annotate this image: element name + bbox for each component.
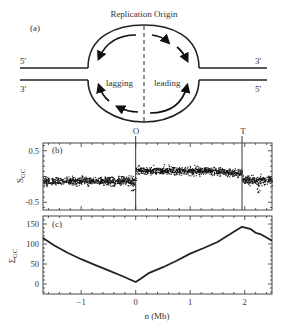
- right-bottom-5prime-label: 5': [255, 84, 262, 94]
- figure: (a) Replication Origin 5' 3' 3' 5' laggi…: [0, 0, 286, 334]
- replication-origin-title: Replication Origin: [110, 9, 178, 19]
- xtick-label: 1: [188, 297, 192, 307]
- panel-b-scatter-plot: (b) 0.5 -0.5 SGC: [15, 136, 273, 210]
- xtick-label: 2: [243, 297, 247, 307]
- origin-marker-O: O: [133, 126, 140, 136]
- right-top-3prime-label: 3': [255, 56, 262, 66]
- panel-c-line-plot: (c) 050100150 −1012 ΣGC n (Mb): [7, 216, 272, 321]
- cumulative-skew-line: [43, 227, 272, 282]
- lagging-lower-arrow-2-icon: [99, 86, 109, 101]
- ytick-label: 0: [35, 279, 39, 289]
- left-bottom-3prime-label: 3': [20, 84, 27, 94]
- panel-a-label: (a): [30, 23, 40, 33]
- left-top-5prime-label: 5': [20, 56, 27, 66]
- lagging-lower-arrow-1-icon: [118, 107, 138, 112]
- ytick-label-neg0.5: -0.5: [26, 197, 39, 207]
- leading-upper-arrow-1-icon: [152, 35, 168, 42]
- panel-c-ylabel: ΣGC: [7, 249, 18, 263]
- panel-c-frame: [43, 216, 272, 294]
- leading-upper-arrow-2-icon: [177, 47, 187, 60]
- bubble-lower-strand: [88, 80, 199, 122]
- panel-a-diagram: (a) Replication Origin 5' 3' 3' 5' laggi…: [20, 9, 267, 136]
- xtick-label: 0: [134, 297, 138, 307]
- leading-lower-arrow-icon: [150, 86, 187, 113]
- panel-b-ylabel: SGC: [15, 169, 26, 183]
- ytick-label-0.5: 0.5: [28, 146, 39, 156]
- panel-c-label: (c): [52, 219, 62, 229]
- x-axis-label: n (Mb): [144, 311, 169, 321]
- ytick-label: 50: [31, 259, 40, 269]
- xtick-label: −1: [77, 297, 86, 307]
- lagging-upper-arrow-icon: [99, 35, 136, 58]
- terminus-marker-T: T: [240, 126, 246, 136]
- panel-c-ticks: [43, 216, 272, 294]
- leading-label: leading: [154, 78, 181, 88]
- scatter-points: [43, 164, 273, 193]
- panel-c-ytick-labels: 050100150: [26, 219, 39, 289]
- lagging-label: lagging: [106, 78, 133, 88]
- panel-b-label: (b): [52, 145, 63, 155]
- panel-c-xtick-labels: −1012: [77, 297, 247, 307]
- ytick-label: 100: [26, 239, 39, 249]
- ytick-label: 150: [26, 219, 39, 229]
